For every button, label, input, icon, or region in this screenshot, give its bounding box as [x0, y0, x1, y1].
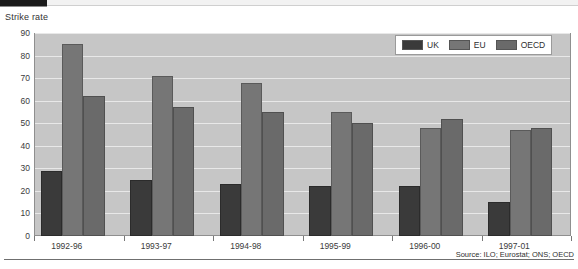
y-tick-label-60: 60 [0, 96, 30, 106]
y-axis: 0102030405060708090 [0, 33, 30, 236]
x-tick-1997-01 [571, 236, 572, 241]
gridline-90 [35, 33, 570, 34]
x-tick-label-1996-00: 1996-00 [409, 241, 440, 251]
y-tick-label-40: 40 [0, 141, 30, 151]
y-tick-label-70: 70 [0, 73, 30, 83]
bar-eu-1996-00 [420, 128, 441, 236]
legend-label-uk: UK [427, 40, 439, 50]
y-tick-label-20: 20 [0, 186, 30, 196]
legend-swatch-eu [449, 40, 470, 50]
bar-oecd-1992-96 [83, 96, 104, 236]
toolbar-dark-chip [0, 0, 47, 7]
bar-uk-1996-00 [399, 186, 420, 236]
legend-label-oecd: OECD [521, 40, 546, 50]
x-tick-label-1992-96: 1992-96 [51, 241, 82, 251]
x-tick-label-1994-98: 1994-98 [230, 241, 261, 251]
gridline-20 [35, 191, 570, 192]
y-tick-label-30: 30 [0, 163, 30, 173]
chart-title: Strike rate [5, 12, 48, 22]
legend-swatch-oecd [496, 40, 517, 50]
bar-eu-1992-96 [62, 44, 83, 236]
x-tick-label-1993-97: 1993-97 [141, 241, 172, 251]
bar-eu-1997-01 [510, 130, 531, 236]
gridline-40 [35, 146, 570, 147]
y-tick-label-10: 10 [0, 208, 30, 218]
legend-item-oecd[interactable]: OECD [496, 40, 546, 50]
legend-item-uk[interactable]: UK [402, 40, 439, 50]
bar-uk-1992-96 [41, 171, 62, 236]
gridline-50 [35, 123, 570, 124]
x-tick-label-1995-99: 1995-99 [320, 241, 351, 251]
top-toolbar-fragment [0, 0, 578, 6]
bar-oecd-1993-97 [173, 107, 194, 236]
legend-item-eu[interactable]: EU [449, 40, 486, 50]
bar-eu-1995-99 [331, 112, 352, 236]
gridline-60 [35, 101, 570, 102]
gridline-70 [35, 78, 570, 79]
bar-uk-1994-98 [220, 184, 241, 236]
source-note: Source: ILO; Eurostat; ONS; OECD [452, 250, 574, 259]
legend-label-eu: EU [474, 40, 486, 50]
bar-uk-1995-99 [309, 186, 330, 236]
footer-divider [4, 259, 574, 260]
bar-oecd-1997-01 [531, 128, 552, 236]
y-tick-label-80: 80 [0, 51, 30, 61]
bar-oecd-1996-00 [441, 119, 462, 236]
bar-uk-1993-97 [130, 180, 151, 236]
bar-oecd-1995-99 [352, 123, 373, 236]
toolbar-divider [47, 5, 578, 6]
gridline-80 [35, 56, 570, 57]
y-tick-label-50: 50 [0, 118, 30, 128]
bar-eu-1993-97 [152, 76, 173, 236]
bar-oecd-1994-98 [262, 112, 283, 236]
legend-swatch-uk [402, 40, 423, 50]
y-tick-label-90: 90 [0, 28, 30, 38]
y-tick-label-0: 0 [0, 231, 30, 241]
chart-legend: UK EU OECD [395, 35, 552, 55]
gridline-30 [35, 168, 570, 169]
bar-eu-1994-98 [241, 83, 262, 236]
bar-uk-1997-01 [488, 202, 509, 236]
